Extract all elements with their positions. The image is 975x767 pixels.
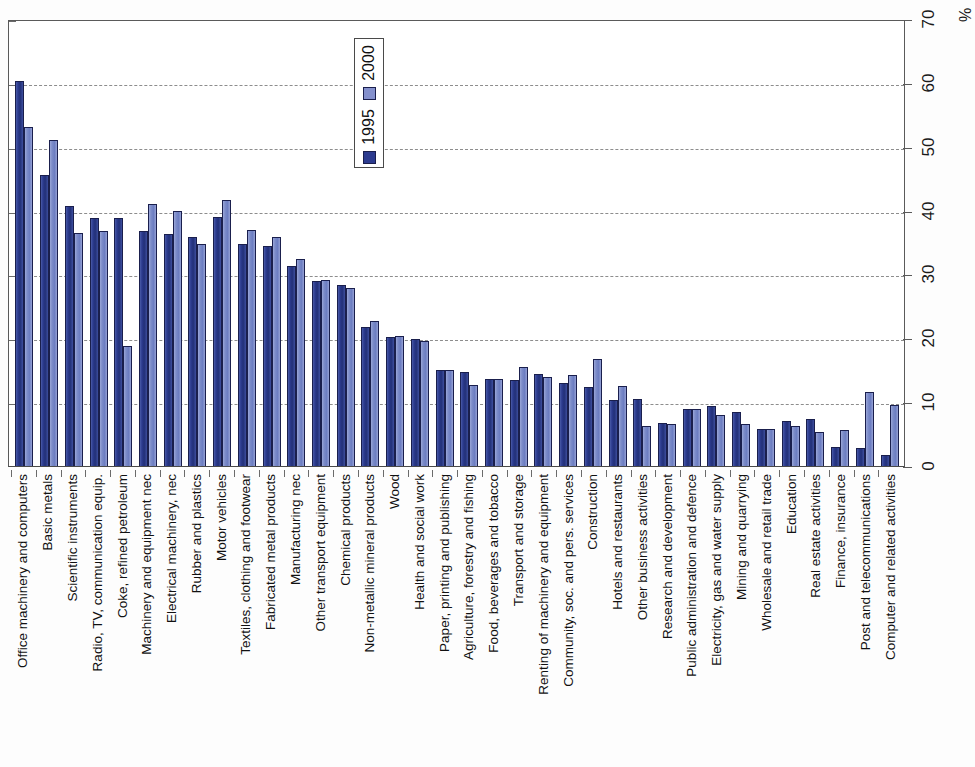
bar-2000 xyxy=(395,336,404,466)
category-tick-mark xyxy=(457,470,458,477)
value-axis-tick xyxy=(903,148,912,149)
bar-group xyxy=(655,21,680,466)
category-label-cell: Textiles, clothing and footwear xyxy=(234,470,259,767)
category-label-cell: Transport and storage xyxy=(507,470,532,767)
bar-group xyxy=(754,21,779,466)
category-label-cell: Community, soc. and pers. services xyxy=(556,470,581,767)
category-tick-mark xyxy=(308,470,309,477)
category-tick-mark xyxy=(61,470,62,477)
category-label: Agriculture, forestry and fishing xyxy=(463,474,477,660)
category-label-cell: Wholesale and retail trade xyxy=(754,470,779,767)
category-tick-mark xyxy=(135,470,136,477)
category-tick-mark xyxy=(730,470,731,477)
bar-1995 xyxy=(337,285,346,466)
category-label: Research and development xyxy=(661,474,675,639)
bar-group xyxy=(12,21,37,466)
category-label-cell: Hotels and restaurants xyxy=(606,470,631,767)
bar-2000 xyxy=(222,200,231,466)
bar-group xyxy=(432,21,457,466)
category-label-cell: Health and social work xyxy=(408,470,433,767)
category-tick-mark xyxy=(655,470,656,477)
category-label: Wood xyxy=(388,474,402,509)
bar-2000 xyxy=(890,405,899,466)
category-tick-mark xyxy=(754,470,755,477)
bar-series-container xyxy=(9,21,904,466)
category-label: Mining and quarrying xyxy=(735,474,749,600)
bar-1995 xyxy=(238,244,247,466)
bar-2000 xyxy=(49,140,58,466)
bar-group xyxy=(136,21,161,466)
category-label: Chemical products xyxy=(339,474,353,586)
category-label-cell: Fabricated metal products xyxy=(259,470,284,767)
bar-2000 xyxy=(469,385,478,466)
category-label: Office machinery and computers xyxy=(17,474,31,668)
value-axis-tick-label: 50 xyxy=(919,127,939,167)
category-tick-mark xyxy=(234,470,235,477)
category-tick-mark xyxy=(631,470,632,477)
category-tick-mark xyxy=(85,470,86,477)
category-label: Post and telecommunications xyxy=(859,474,873,650)
bar-2000 xyxy=(24,127,33,466)
category-label: Manufacturing nec xyxy=(289,474,303,585)
bar-1995 xyxy=(40,175,49,466)
bar-1995 xyxy=(460,372,469,466)
legend-label: 1995 xyxy=(360,109,378,145)
bar-group xyxy=(531,21,556,466)
category-label: Scientific instruments xyxy=(66,474,80,602)
bar-group xyxy=(210,21,235,466)
bar-1995 xyxy=(114,218,123,466)
category-label-cell: Agriculture, forestry and fishing xyxy=(457,470,482,767)
value-axis-tick-label: 30 xyxy=(919,254,939,294)
bar-1995 xyxy=(658,423,667,466)
category-tick-mark xyxy=(854,470,855,477)
category-label-cell: Rubber and plastics xyxy=(184,470,209,767)
category-label: Non-metallic mineral products xyxy=(364,474,378,653)
category-label-cell: Construction xyxy=(581,470,606,767)
bar-group xyxy=(160,21,185,466)
bar-2000 xyxy=(791,426,800,466)
value-axis-tick xyxy=(903,84,912,85)
bar-1995 xyxy=(90,218,99,466)
bar-1995 xyxy=(361,327,370,466)
value-axis-tick xyxy=(903,212,912,213)
bar-2000 xyxy=(741,424,750,466)
bar-1995 xyxy=(609,400,618,466)
bar-group xyxy=(729,21,754,466)
category-label: Radio, TV, communication equip. xyxy=(91,474,105,671)
category-label-cell: Coke, refined petroleum xyxy=(110,470,135,767)
category-label-cell: Chemical products xyxy=(333,470,358,767)
bar-2000 xyxy=(321,280,330,466)
category-label-cell: Basic metals xyxy=(36,470,61,767)
category-label: Health and social work xyxy=(413,474,427,610)
category-label: Transport and storage xyxy=(512,474,526,606)
bar-group xyxy=(86,21,111,466)
legend-swatch xyxy=(363,151,376,164)
category-tick-mark xyxy=(531,470,532,477)
category-tick-mark xyxy=(581,470,582,477)
category-tick-mark xyxy=(160,470,161,477)
plot-area xyxy=(8,20,905,467)
category-label-cell: Education xyxy=(779,470,804,767)
category-label: Motor vehicles xyxy=(215,474,229,561)
bar-2000 xyxy=(74,233,83,466)
category-tick-mark xyxy=(209,470,210,477)
bar-group xyxy=(679,21,704,466)
bar-group xyxy=(284,21,309,466)
category-label: Wholesale and retail trade xyxy=(760,474,774,631)
category-tick-mark xyxy=(482,470,483,477)
bar-2000 xyxy=(197,244,206,466)
bar-1995 xyxy=(485,379,494,466)
legend-label: 2000 xyxy=(360,45,378,81)
category-label-cell: Other business activities xyxy=(631,470,656,767)
category-label-cell: Post and telecommunications xyxy=(854,470,879,767)
axis-unit-label: % xyxy=(957,8,975,22)
category-label-cell: Electricity, gas and water supply xyxy=(705,470,730,767)
category-tick-mark xyxy=(383,470,384,477)
legend-swatch xyxy=(363,87,376,100)
bar-1995 xyxy=(831,447,840,466)
value-axis-tick-label: 10 xyxy=(919,382,939,422)
bar-1995 xyxy=(15,81,24,466)
bar-2000 xyxy=(123,346,132,466)
bar-1995 xyxy=(856,448,865,466)
bar-group xyxy=(457,21,482,466)
